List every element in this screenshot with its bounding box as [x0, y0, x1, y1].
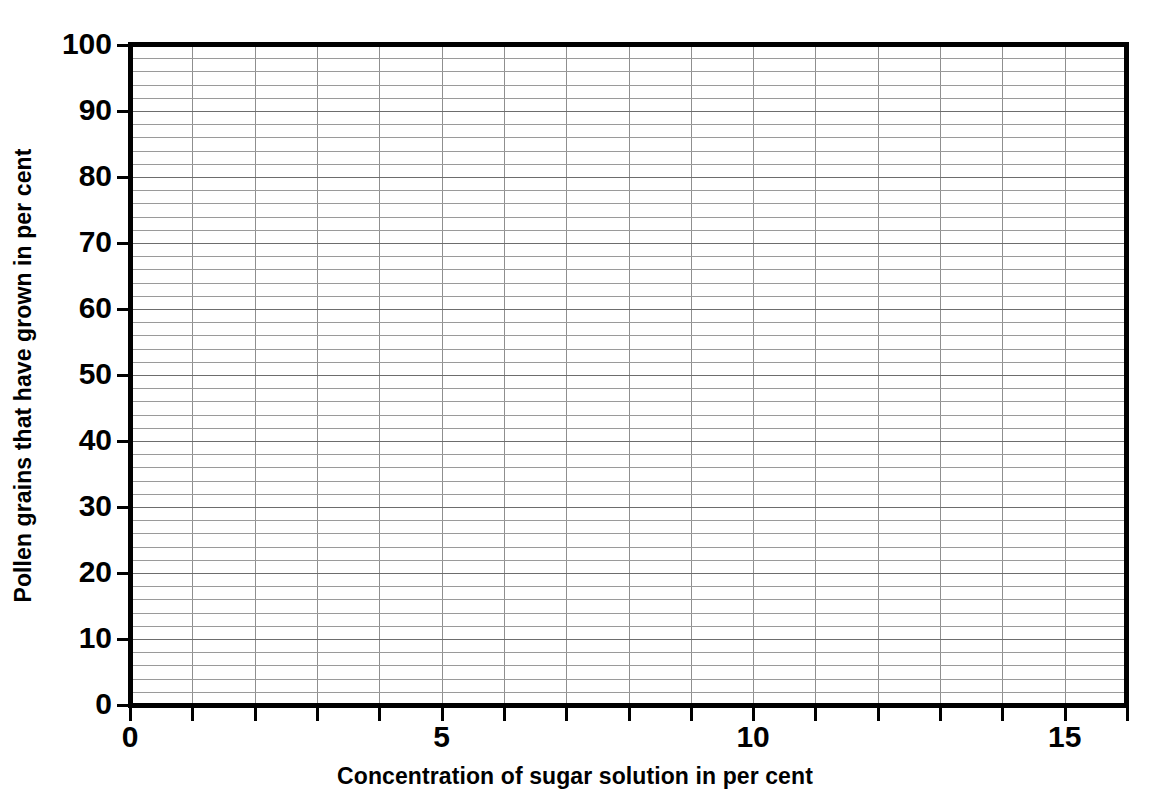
y-axis-tick [117, 638, 130, 641]
gridline-horizontal-minor [130, 322, 1127, 323]
x-axis-tick [441, 707, 444, 721]
y-axis-tick-label: 50 [79, 359, 112, 389]
gridline-horizontal-minor [130, 428, 1127, 429]
x-axis-tick-label: 10 [713, 722, 793, 752]
x-axis-tick-label: 0 [90, 722, 170, 752]
gridline-horizontal-minor [130, 296, 1127, 297]
gridline-horizontal-minor [130, 256, 1127, 257]
gridline-horizontal-minor [130, 71, 1127, 72]
gridline-horizontal-minor [130, 230, 1127, 231]
x-axis-tick [1064, 707, 1067, 721]
gridline-horizontal-major [130, 639, 1127, 640]
x-axis-title: Concentration of sugar solution in per c… [0, 763, 1150, 790]
x-axis-tick [814, 707, 817, 721]
gridline-horizontal-minor [130, 124, 1127, 125]
y-axis-title-container: Pollen grains that have grown in per cen… [0, 0, 48, 750]
x-axis-tick [752, 707, 755, 721]
gridline-horizontal-minor [130, 98, 1127, 99]
y-axis-tick-label: 10 [79, 623, 112, 653]
y-axis-tick [117, 506, 130, 509]
gridline-horizontal-minor [130, 560, 1127, 561]
x-axis-tick [254, 707, 257, 721]
gridline-horizontal-minor [130, 349, 1127, 350]
gridline-horizontal-minor [130, 269, 1127, 270]
y-axis-tick [117, 110, 130, 113]
y-axis-tick [117, 308, 130, 311]
axis-top-border [128, 42, 1129, 47]
gridline-horizontal-minor [130, 190, 1127, 191]
x-axis-tick [628, 707, 631, 721]
gridline-horizontal-minor [130, 481, 1127, 482]
gridline-horizontal-minor [130, 652, 1127, 653]
y-axis-title: Pollen grains that have grown in per cen… [11, 148, 38, 602]
gridline-horizontal-minor [130, 85, 1127, 86]
y-axis-tick [117, 44, 130, 47]
y-axis-tick [117, 242, 130, 245]
axis-right-border [1124, 42, 1129, 708]
x-axis-tick [877, 707, 880, 721]
x-axis-tick [939, 707, 942, 721]
gridline-horizontal-minor [130, 283, 1127, 284]
gridline-horizontal-major [130, 111, 1127, 112]
y-axis-tick-label: 80 [79, 161, 112, 191]
y-axis-tick-label: 40 [79, 425, 112, 455]
gridline-horizontal-minor [130, 137, 1127, 138]
gridline-horizontal-minor [130, 401, 1127, 402]
gridline-horizontal-minor [130, 547, 1127, 548]
gridline-horizontal-minor [130, 494, 1127, 495]
gridline-horizontal-major [130, 573, 1127, 574]
gridline-horizontal-major [130, 309, 1127, 310]
x-axis-tick [1001, 707, 1004, 721]
gridline-horizontal-major [130, 177, 1127, 178]
gridline-horizontal-minor [130, 362, 1127, 363]
y-axis-tick [117, 572, 130, 575]
x-axis-tick [316, 707, 319, 721]
gridline-horizontal-minor [130, 415, 1127, 416]
y-axis-tick [117, 176, 130, 179]
gridline-horizontal-major [130, 243, 1127, 244]
y-axis-tick [117, 440, 130, 443]
gridline-horizontal-major [130, 441, 1127, 442]
gridline-horizontal-minor [130, 388, 1127, 389]
gridline-horizontal-minor [130, 679, 1127, 680]
x-axis-tick [191, 707, 194, 721]
gridline-horizontal-minor [130, 692, 1127, 693]
x-axis-tick [129, 707, 132, 721]
gridline-horizontal-major [130, 507, 1127, 508]
x-axis-tick-label: 5 [402, 722, 482, 752]
gridline-horizontal-minor [130, 454, 1127, 455]
gridline-horizontal-minor [130, 599, 1127, 600]
gridline-horizontal-minor [130, 613, 1127, 614]
chart-figure: Pollen grains that have grown in per cen… [0, 0, 1150, 808]
gridline-horizontal-minor [130, 164, 1127, 165]
gridline-horizontal-major [130, 375, 1127, 376]
gridline-horizontal-minor [130, 533, 1127, 534]
y-axis-tick-label: 100 [62, 29, 112, 59]
gridlines [130, 45, 1127, 705]
x-axis-tick-label: 15 [1025, 722, 1105, 752]
gridline-horizontal-minor [130, 467, 1127, 468]
x-axis-tick [565, 707, 568, 721]
y-axis-tick-label: 30 [79, 491, 112, 521]
gridline-horizontal-minor [130, 58, 1127, 59]
gridline-horizontal-minor [130, 665, 1127, 666]
x-axis-tick [1126, 707, 1129, 721]
gridline-horizontal-minor [130, 335, 1127, 336]
gridline-horizontal-minor [130, 586, 1127, 587]
y-axis-tick-label: 70 [79, 227, 112, 257]
x-axis-tick [378, 707, 381, 721]
y-axis-tick-label: 60 [79, 293, 112, 323]
plot-area [130, 45, 1127, 705]
x-axis-tick [503, 707, 506, 721]
y-axis-tick [117, 374, 130, 377]
gridline-horizontal-minor [130, 151, 1127, 152]
gridline-horizontal-minor [130, 217, 1127, 218]
y-axis-tick-label: 20 [79, 557, 112, 587]
x-axis-tick [690, 707, 693, 721]
y-axis-tick-label: 0 [95, 689, 112, 719]
gridline-horizontal-minor [130, 203, 1127, 204]
gridline-horizontal-minor [130, 626, 1127, 627]
y-axis-tick-label: 90 [79, 95, 112, 125]
gridline-horizontal-minor [130, 520, 1127, 521]
